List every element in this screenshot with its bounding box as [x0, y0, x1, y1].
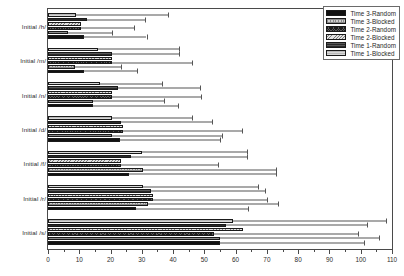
bar-time-3-random: [48, 70, 84, 73]
bar-time-3-random: [48, 173, 129, 176]
error-bar: [123, 131, 242, 132]
error-bar: [68, 32, 112, 33]
x-axis-tick-label: 40: [170, 256, 177, 263]
y-axis-label: Initial /f/: [0, 160, 46, 167]
bar-time-1-blocked: [48, 13, 76, 16]
bar-row: [48, 189, 392, 192]
bar-time-3-blocked: [48, 134, 112, 137]
x-axis-tick: [48, 250, 49, 254]
error-bar: [112, 62, 192, 63]
error-bar: [151, 190, 265, 191]
x-axis-minor-tick: [376, 250, 377, 252]
bar-time-1-random: [48, 189, 151, 192]
legend-item: Time 3-Blocked: [326, 17, 396, 25]
bar-time-3-blocked: [48, 237, 220, 240]
x-axis-tick: [204, 250, 205, 254]
bar-time-1-random: [48, 121, 121, 124]
x-axis-tick-label: 60: [232, 256, 239, 263]
x-axis-minor-tick: [126, 250, 127, 252]
bar-time-3-blocked: [48, 31, 68, 34]
bar-time-1-blocked: [48, 116, 112, 119]
x-axis-tick-label: 90: [326, 256, 333, 263]
x-axis-tick-label: 50: [201, 256, 208, 263]
legend-swatch-icon: [326, 42, 346, 47]
x-axis-minor-tick: [220, 250, 221, 252]
legend-label: Time 2-Blocked: [350, 34, 394, 41]
error-bar: [112, 53, 179, 54]
bar-time-1-blocked: [48, 185, 143, 188]
bar-row: [48, 65, 392, 68]
x-axis-tick: [142, 250, 143, 254]
x-axis-tick-label: 100: [355, 256, 366, 263]
bar-row: [48, 116, 392, 119]
bar-time-2-blocked: [48, 57, 112, 60]
bar-row: [48, 164, 392, 167]
bar-row: [48, 159, 392, 162]
error-bar: [120, 139, 220, 140]
bar-time-2-random: [48, 27, 81, 30]
bar-time-1-blocked: [48, 151, 142, 154]
error-bar: [153, 199, 267, 200]
x-axis-minor-tick: [345, 250, 346, 252]
bar-time-1-random: [48, 86, 118, 89]
error-bar: [143, 186, 257, 187]
x-axis-tick-label: 10: [76, 256, 83, 263]
legend-item: Time 3-Random: [326, 9, 396, 17]
bar-row: [48, 168, 392, 171]
error-bar: [87, 19, 145, 20]
legend-swatch-icon: [326, 26, 346, 31]
x-axis-minor-tick: [189, 250, 190, 252]
error-bar-cap: [178, 103, 179, 108]
error-bar: [93, 101, 163, 102]
bar-time-2-random: [48, 164, 121, 167]
bar-time-2-random: [48, 198, 153, 201]
error-bar: [214, 234, 358, 235]
y-axis-label: Initial /n/: [0, 91, 46, 98]
bar-row: [48, 70, 392, 73]
legend-item: Time 2-Random: [326, 25, 396, 33]
bar-time-2-random: [48, 232, 214, 235]
error-bar: [84, 71, 137, 72]
bar-row: [48, 91, 392, 94]
bar-time-3-random: [48, 104, 93, 107]
bar-time-2-blocked: [48, 125, 123, 128]
error-bar: [84, 37, 147, 38]
legend-label: Time 2-Random: [350, 26, 396, 33]
legend-item: Time 1-Blocked: [326, 49, 396, 57]
x-axis-tick-label: 110: [387, 256, 397, 263]
bar-time-2-random: [48, 95, 112, 98]
bar-row: [48, 224, 392, 227]
legend-label: Time 1-Random: [350, 42, 396, 49]
error-bar-cap: [276, 172, 277, 177]
bar-time-1-random: [48, 18, 87, 21]
x-axis-tick: [236, 250, 237, 254]
bar-time-3-blocked: [48, 168, 143, 171]
x-axis-minor-tick: [283, 250, 284, 252]
bar-row: [48, 125, 392, 128]
error-bar: [118, 88, 199, 89]
x-axis-tick: [329, 250, 330, 254]
legend-label: Time 3-Blocked: [350, 18, 394, 25]
y-axis-category-labels: Initial /h/Initial /m/Initial /n/Initial…: [0, 0, 46, 276]
bar-time-3-blocked: [48, 100, 93, 103]
bar-row: [48, 121, 392, 124]
bar-row: [48, 219, 392, 222]
x-axis-tick-label: 30: [138, 256, 145, 263]
legend-swatch-icon: [326, 18, 346, 23]
bar-row: [48, 207, 392, 210]
bar-row: [48, 241, 392, 244]
error-bar: [121, 165, 218, 166]
bar-row: [48, 82, 392, 85]
error-bar: [112, 117, 192, 118]
x-axis-tick-label: 70: [263, 256, 270, 263]
bar-chart: Initial /h/Initial /m/Initial /n/Initial…: [0, 0, 404, 276]
error-bar: [81, 28, 134, 29]
x-axis-tick: [173, 250, 174, 254]
bar-time-2-blocked: [48, 194, 153, 197]
y-axis-label: Initial /m/: [0, 57, 46, 64]
error-bar-cap: [220, 137, 221, 142]
x-axis-tick: [392, 250, 393, 254]
bar-row: [48, 100, 392, 103]
bar-row: [48, 95, 392, 98]
error-bar-cap: [364, 240, 365, 245]
